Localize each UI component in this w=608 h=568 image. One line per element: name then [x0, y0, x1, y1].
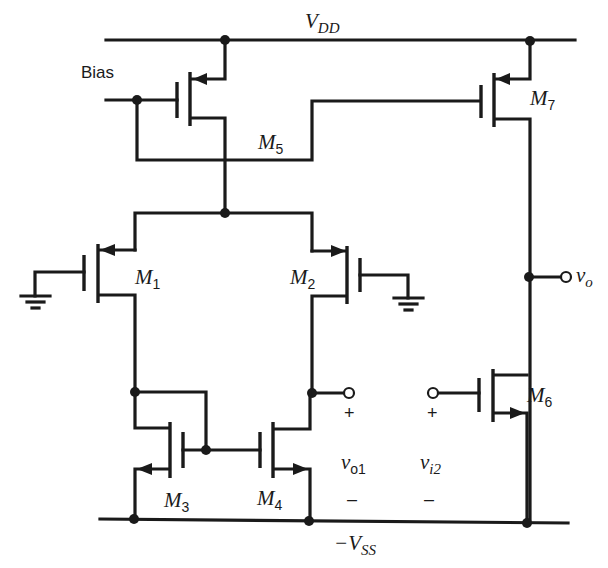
junction-dot — [304, 516, 314, 526]
m5-label-sub: 5 — [276, 141, 284, 157]
junction-dot — [522, 518, 532, 528]
m6-label: M6 — [527, 385, 552, 406]
tail-wire — [135, 213, 312, 251]
vi2-label-sub: i2 — [429, 461, 441, 477]
m2-label-sub: 2 — [308, 276, 316, 292]
vss-label-sub: SS — [361, 542, 376, 558]
m6-label-sub: 6 — [545, 394, 553, 410]
m5-label: M5 — [258, 132, 283, 153]
circuit-diagram: VDD Bias M5 M7 M1 M2 M3 M4 M6 vo + + vo1… — [0, 0, 608, 568]
m1-label-main: M — [135, 265, 153, 289]
m3-label-main: M — [164, 488, 182, 512]
m5-label-main: M — [258, 130, 276, 154]
vo1-label-main: v — [341, 450, 350, 474]
m4-label-sub: 4 — [275, 497, 283, 513]
vo1-minus-sign: – — [347, 490, 357, 508]
transistor-m1-symbol — [21, 244, 135, 392]
vdd-label-sub: DD — [318, 20, 340, 36]
junction-dot — [129, 514, 139, 524]
vi2-label-main: v — [420, 450, 429, 474]
vi2-plus-sign: + — [427, 404, 438, 422]
m7-label-sub: 7 — [548, 97, 556, 113]
vdd-label-main: V — [305, 9, 318, 33]
m4-label-main: M — [257, 486, 275, 510]
m3-label-sub: 3 — [182, 499, 190, 515]
m1-label: M1 — [135, 267, 160, 288]
m6-label-main: M — [527, 383, 545, 407]
vss-rail — [100, 519, 568, 523]
m3-label: M3 — [164, 490, 189, 511]
vo1-terminal[interactable] — [344, 388, 354, 398]
transistor-m7-symbol — [481, 41, 530, 520]
m4-label: M4 — [257, 488, 282, 509]
vo1-label: vo1 — [341, 452, 366, 473]
bias-label: Bias — [81, 64, 114, 81]
m2-label-main: M — [290, 265, 308, 289]
m2-label: M2 — [290, 267, 315, 288]
vo-label-main: v — [576, 263, 585, 287]
vss-label-prefix: − — [334, 531, 348, 555]
vss-label-main: V — [348, 531, 361, 555]
transistor-m6-symbol — [438, 369, 527, 522]
vi2-label: vi2 — [420, 452, 441, 473]
vss-label: −VSS — [334, 533, 376, 554]
m1-label-sub: 1 — [153, 276, 161, 292]
transistor-m2-symbol — [312, 245, 423, 393]
vi2-terminal[interactable] — [428, 388, 438, 398]
vo-terminal[interactable] — [561, 272, 571, 282]
transistor-m5-symbol — [177, 40, 225, 213]
vdd-label: VDD — [305, 11, 340, 32]
vo1-plus-sign: + — [344, 404, 355, 422]
m7-label: M7 — [530, 88, 555, 109]
vo1-label-sub: o1 — [350, 461, 366, 477]
m7-label-main: M — [530, 86, 548, 110]
vo-label: vo — [576, 265, 593, 286]
vi2-minus-sign: – — [424, 490, 434, 508]
vo-label-sub: o — [585, 274, 593, 290]
